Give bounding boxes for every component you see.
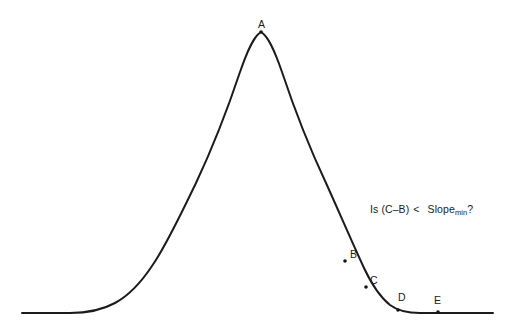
marker-dot-c	[364, 285, 368, 289]
curve-plot-area	[0, 0, 513, 330]
annotation-prefix: Is (C–B)	[370, 203, 409, 215]
marker-dot-a	[259, 30, 263, 34]
point-label-a: A	[258, 19, 265, 30]
point-label-c: C	[370, 275, 378, 286]
marker-dot-d	[396, 308, 400, 312]
annotation-suffix: ?	[467, 203, 473, 215]
annotation-subscript: min	[455, 208, 467, 217]
peak-curve-path	[22, 32, 493, 313]
slope-condition-annotation: Is (C–B)<Slopemin?	[370, 204, 473, 215]
point-label-e: E	[434, 295, 441, 306]
annotation-term: Slope	[428, 203, 455, 215]
marker-dot-b	[343, 259, 347, 263]
point-label-d: D	[398, 292, 406, 303]
marker-dot-e	[436, 310, 440, 314]
peak-detection-figure: A B C D E Is (C–B)<Slopemin?	[0, 0, 513, 330]
point-label-b: B	[350, 249, 357, 260]
annotation-operator: <	[413, 203, 419, 215]
